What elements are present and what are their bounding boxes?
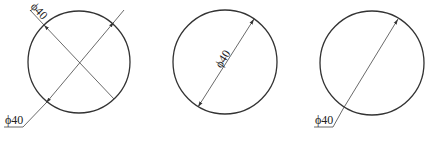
figure-circle-3: ϕ40: [314, 11, 424, 127]
dimension-label-bottom: ϕ40: [5, 113, 23, 127]
dimension-line-diagonal-b: [46, 22, 114, 103]
dimension-label-top: ϕ40: [28, 0, 51, 22]
dimension-label: ϕ40: [212, 47, 234, 70]
figure-circle-2: ϕ40: [173, 10, 277, 114]
circle-outline: [320, 11, 424, 115]
diagram-canvas: ϕ40 ϕ40 ϕ40 ϕ40: [0, 0, 428, 141]
dimension-label: ϕ40: [315, 113, 333, 127]
dimension-line: [343, 19, 398, 109]
figure-circle-1: ϕ40 ϕ40: [4, 0, 130, 127]
dimension-line-diagonal-a: [44, 25, 114, 99]
extension-line: [114, 10, 124, 22]
